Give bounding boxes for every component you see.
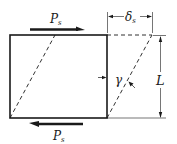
displacement-label: δs: [125, 10, 136, 25]
length-label: L: [155, 73, 165, 88]
bottom-force-label: Ps: [52, 129, 65, 144]
top-force-arrow: [30, 27, 85, 32]
deformed-left-edge: [10, 35, 55, 118]
deformed-right-edge: [107, 35, 152, 118]
shear-diagram: Ps Ps δs L γ: [0, 0, 177, 144]
original-block: [10, 35, 107, 118]
top-force-label: Ps: [49, 12, 62, 27]
bottom-force-arrow: [29, 121, 83, 127]
shear-angle-label: γ: [115, 73, 123, 87]
